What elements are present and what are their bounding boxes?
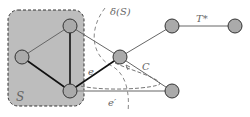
graph-canvas: S δ(S) T* C e e′ bbox=[0, 0, 250, 117]
label-e-prime: e′ bbox=[108, 97, 117, 108]
label-cycle: C bbox=[142, 61, 150, 72]
label-tree: T* bbox=[196, 13, 208, 24]
diagram: S δ(S) T* C e e′ bbox=[0, 0, 250, 117]
label-cut: δ(S) bbox=[110, 6, 131, 17]
label-e: e bbox=[88, 66, 94, 77]
label-s: S bbox=[16, 90, 24, 104]
